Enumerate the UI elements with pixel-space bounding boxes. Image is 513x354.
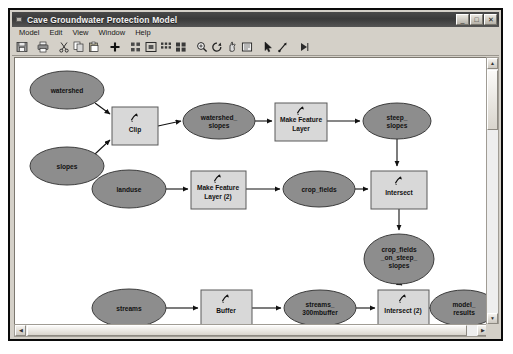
node-buffer[interactable]: Buffer	[201, 290, 252, 325]
resize-grip[interactable]	[486, 324, 499, 337]
menu-item-model[interactable]: Model	[14, 27, 44, 39]
vertical-scroll-thumb[interactable]	[487, 70, 498, 130]
minimize-icon: _	[461, 16, 465, 23]
add-data-icon[interactable]	[108, 40, 122, 54]
node-landuse[interactable]: landuse	[92, 170, 166, 208]
scroll-down-button[interactable]: ▼	[487, 313, 498, 324]
toolbar-separator-2	[51, 40, 56, 54]
menu-item-view[interactable]: View	[67, 27, 93, 39]
node-streams_300mbuffer[interactable]: streams_ 300mbuffer	[284, 290, 356, 325]
node-steep_slopes[interactable]: steep_ slopes	[363, 103, 431, 139]
toolbar-separator-5	[189, 40, 194, 54]
model-window-icon	[15, 15, 24, 24]
node-make_feature_layer_2[interactable]: Make Feature Layer (2)	[191, 171, 246, 209]
chevron-right-icon: ▶	[481, 328, 485, 333]
select-all-icon[interactable]	[174, 40, 188, 54]
zoom-whole-page-icon[interactable]	[240, 40, 254, 54]
copy-icon[interactable]	[72, 40, 86, 54]
window-controls: _ □ ✕	[456, 14, 497, 25]
screenshot-root: Cave Groundwater Protection Model _ □ ✕ …	[0, 0, 513, 354]
toolbar-separator-7	[291, 40, 296, 54]
menu-bar: Model Edit View Window Help	[12, 27, 499, 39]
node-slopes[interactable]: slopes	[30, 147, 104, 185]
close-button[interactable]: ✕	[484, 14, 497, 25]
close-icon: ✕	[488, 16, 494, 23]
zoom-in-icon[interactable]	[195, 40, 209, 54]
horizontal-scrollbar[interactable]: ◀ ▶	[14, 324, 489, 337]
connector-slopes-clip	[95, 140, 110, 154]
run-icon[interactable]	[297, 40, 311, 54]
auto-layout-icon[interactable]	[129, 40, 143, 54]
toolbar-separator-3	[102, 40, 107, 54]
zoom-out-icon[interactable]	[210, 40, 224, 54]
fit-to-window-icon[interactable]	[144, 40, 158, 54]
model-canvas[interactable]: watershed slopes watershed_ slopes steep…	[14, 57, 489, 325]
maximize-icon: □	[474, 16, 478, 23]
window-title: Cave Groundwater Protection Model	[27, 15, 177, 25]
node-intersect[interactable]: Intersect	[371, 171, 427, 209]
node-crop_fields_on_steep_slopes[interactable]: crop_fields _on_steep_ slopes	[364, 234, 434, 284]
node-crop_fields[interactable]: crop_fields	[283, 171, 355, 207]
scroll-left-button[interactable]: ◀	[15, 325, 26, 336]
scroll-up-button[interactable]: ▲	[487, 58, 498, 69]
paste-icon[interactable]	[87, 40, 101, 54]
node-model_results[interactable]: model_ results	[430, 290, 489, 325]
node-intersect_2[interactable]: Intersect (2)	[378, 290, 429, 325]
title-bar[interactable]: Cave Groundwater Protection Model _ □ ✕	[12, 12, 499, 27]
connect-icon[interactable]	[276, 40, 290, 54]
node-streams[interactable]: streams	[92, 289, 166, 325]
node-watershed_slopes[interactable]: watershed_ slopes	[183, 103, 255, 139]
connector-watershed-clip	[95, 103, 110, 114]
toolbar	[12, 39, 499, 56]
cut-icon[interactable]	[57, 40, 71, 54]
vertical-scrollbar[interactable]: ▲ ▼	[486, 57, 499, 325]
chevron-down-icon: ▼	[490, 316, 495, 321]
maximize-button[interactable]: □	[470, 14, 483, 25]
model-window: Cave Groundwater Protection Model _ □ ✕ …	[8, 8, 503, 341]
select-pointer-icon[interactable]	[261, 40, 275, 54]
chevron-left-icon: ◀	[19, 328, 23, 333]
minimize-button[interactable]: _	[456, 14, 469, 25]
toolbar-separator-4	[123, 40, 128, 54]
menu-item-window[interactable]: Window	[94, 27, 131, 39]
model-diagram: watershed slopes watershed_ slopes steep…	[15, 58, 489, 325]
horizontal-scroll-thumb[interactable]	[27, 325, 467, 336]
toolbar-separator-6	[255, 40, 260, 54]
node-make_feature_layer[interactable]: Make Feature Layer	[275, 103, 327, 141]
chevron-up-icon: ▲	[490, 61, 495, 66]
menu-item-edit[interactable]: Edit	[44, 27, 67, 39]
print-icon[interactable]	[36, 40, 50, 54]
node-watershed[interactable]: watershed	[30, 71, 104, 109]
pan-icon[interactable]	[225, 40, 239, 54]
menu-item-help[interactable]: Help	[130, 27, 155, 39]
node-clip[interactable]: Clip	[112, 107, 158, 145]
save-icon[interactable]	[15, 40, 29, 54]
connector-clip-watershed_slopes	[158, 121, 181, 126]
diagram-properties-icon[interactable]	[159, 40, 173, 54]
toolbar-separator-1	[30, 40, 35, 54]
